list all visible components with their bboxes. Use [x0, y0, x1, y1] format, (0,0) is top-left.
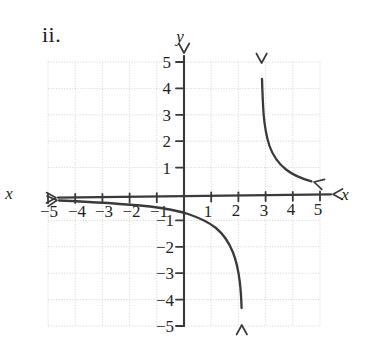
x-axis [58, 194, 331, 197]
x-tick-label: −1 [150, 202, 168, 221]
y-axis-name: y [174, 27, 184, 46]
y-axis-tick-labels: 5 4 3 2 1 −1 −2 −3 −4 −5 [156, 53, 175, 336]
x-tick-label: 2 [232, 201, 241, 220]
x-tick-label: 5 [314, 200, 323, 219]
y-tick-label: −3 [156, 264, 174, 283]
x-tick-label: 1 [204, 202, 213, 221]
x-axis-name-right: x [340, 185, 349, 204]
y-tick-label: 1 [163, 159, 172, 178]
axes [47, 44, 343, 327]
y-tick-label: −5 [156, 317, 174, 336]
y-tick-label: 5 [163, 53, 172, 72]
x-tick-label: −4 [68, 202, 87, 221]
x-tick-label: −3 [95, 202, 113, 221]
figure-label: ii. [42, 22, 61, 48]
x-axis-name-left: x [4, 184, 13, 203]
graph-figure: ii. [0, 0, 368, 344]
x-tick-label: 4 [287, 200, 296, 219]
curve-up-arrow-icon [256, 54, 266, 64]
y-tick-label: −2 [156, 238, 174, 257]
y-tick-label: −4 [156, 291, 175, 310]
y-tick-label: 3 [163, 106, 172, 125]
curve-right-branch [256, 54, 324, 190]
curve-right-arrow-icon [313, 177, 325, 190]
x-axis-tick-labels: −5 −4 −3 −2 −1 1 2 3 4 5 [40, 200, 322, 221]
coordinate-plane: 5 4 3 2 1 −1 −2 −3 −4 −5 −5 −4 −3 −2 −1 … [0, 0, 368, 344]
x-tick-label: 3 [260, 201, 269, 220]
y-tick-label: 2 [163, 132, 172, 151]
y-tick-label: 4 [163, 79, 172, 98]
